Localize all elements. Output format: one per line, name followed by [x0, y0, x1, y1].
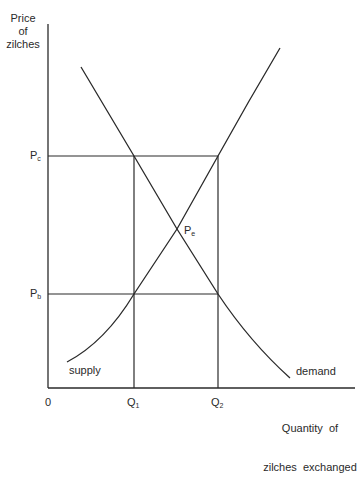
pb-label: Pb: [30, 287, 41, 303]
supply-curve: [67, 48, 280, 362]
demand-curve: [81, 67, 290, 378]
y-axis-label-line: of: [2, 25, 44, 38]
origin-label: 0: [45, 396, 51, 409]
y-axis-label-line: zilches: [2, 38, 44, 51]
x-axis-label-line: zilches exchanged: [262, 461, 358, 474]
supply-label: supply: [69, 364, 101, 377]
equilibrium-label: Pe: [184, 224, 195, 240]
x-axis-label-line: Quantity of: [262, 422, 358, 435]
demand-label: demand: [296, 365, 336, 378]
y-axis-label: Price of zilches: [2, 12, 44, 51]
q2-label: Q2: [211, 396, 223, 412]
pc-label: Pc: [30, 149, 41, 165]
x-axis-label: Quantity of zilches exchanged: [262, 396, 358, 477]
y-axis-label-line: Price: [2, 12, 44, 25]
q1-label: Q1: [127, 396, 139, 412]
